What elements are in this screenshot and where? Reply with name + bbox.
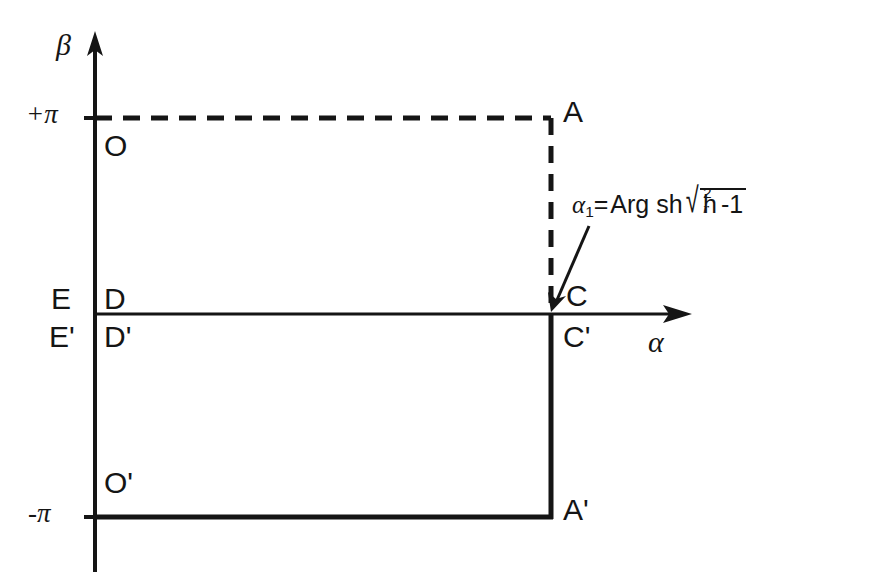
point-label-c-prime: C'	[563, 322, 590, 352]
formula-h-stack: h2r	[703, 192, 721, 217]
point-label-e: E	[51, 284, 71, 314]
upper-rectangle	[95, 118, 551, 314]
leader-arrowhead	[548, 292, 566, 312]
formula-equals: =	[594, 190, 609, 218]
radical-body: h2r-1	[700, 188, 746, 217]
point-label-e-prime: E'	[49, 322, 75, 352]
point-label-d-prime: D'	[104, 322, 131, 352]
point-label-o-prime: O'	[104, 468, 133, 498]
formula-subscript: 1	[585, 203, 594, 220]
tick-label-plus-pi: +π	[26, 101, 58, 128]
formula-radicand-tail: -1	[721, 190, 743, 218]
beta-axis	[87, 31, 103, 572]
figure-canvas: β α +π -π O A E D E' D' C C' O' A' α1=Ar…	[0, 0, 883, 580]
point-label-o: O	[104, 131, 127, 161]
formula-variable: α	[572, 191, 585, 218]
point-label-a: A	[563, 97, 583, 127]
point-label-c: C	[566, 281, 588, 311]
alpha-axis	[95, 305, 692, 323]
alpha-axis-label: α	[648, 327, 664, 357]
alpha1-formula: α1=Arg sh √h2r-1	[572, 188, 746, 220]
formula-radicand-subscript: r	[703, 200, 709, 216]
point-label-d: D	[104, 284, 126, 314]
lower-rectangle	[93, 314, 553, 519]
tick-label-minus-pi: -π	[28, 500, 51, 527]
formula-function: Arg sh	[610, 190, 682, 218]
formula-radicand-superscript: 2	[703, 185, 712, 201]
point-label-a-prime: A'	[563, 495, 589, 525]
beta-axis-label: β	[56, 30, 71, 60]
formula-radical: √h2r-1	[683, 188, 747, 217]
radical-sign-icon: √	[685, 182, 698, 217]
